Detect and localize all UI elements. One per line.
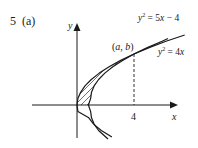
eq2-rhs-var: x [180,47,184,57]
question-number: 5 [10,14,16,28]
question-label: 5(a) [10,15,35,27]
y-axis-label: y [68,21,72,31]
eq2-rhs-prefix: = 4 [165,47,180,57]
y-axis [74,23,81,138]
eq1-rhs-suffix: − 4 [164,13,179,23]
y-axis-arrow-icon [74,23,81,31]
x-axis-arrow-icon [170,102,178,109]
equation-y2-4x: y2 = 4x [158,48,184,58]
equation-y2-5x-minus-4: y2 = 5x − 4 [138,14,179,24]
x-axis [32,102,178,109]
x-tick-4: 4 [131,112,136,122]
eq1-rhs-prefix: = 5 [145,13,160,23]
paren-close: ) [130,41,133,52]
x-axis-label: x [172,112,176,122]
question-part: (a) [22,14,35,28]
intersection-label: (a, b) [112,42,134,52]
curve-y2-5x-minus-4 [88,39,168,140]
